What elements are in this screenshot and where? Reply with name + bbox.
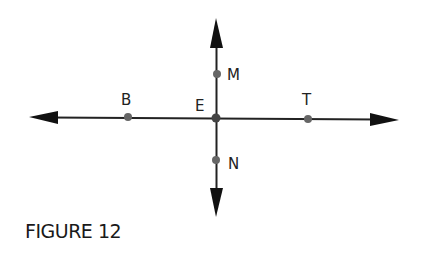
label-t: T [301, 91, 312, 109]
label-m: M [227, 66, 240, 84]
arrow-down-icon [210, 188, 223, 217]
point-b [124, 113, 132, 121]
arrow-left-icon [29, 111, 58, 124]
point-n [212, 156, 220, 164]
figure-caption: FIGURE 12 [25, 220, 121, 242]
figure-12: M B E T N FIGURE 12 [0, 0, 427, 253]
diagram-canvas: M B E T N [0, 0, 427, 253]
point-e [212, 114, 221, 123]
arrow-right-icon [370, 113, 399, 126]
arrow-up-icon [210, 18, 223, 48]
label-n: N [228, 155, 239, 173]
label-e: E [195, 97, 204, 115]
label-b: B [121, 91, 131, 109]
point-m [213, 70, 221, 78]
point-t [304, 115, 312, 123]
